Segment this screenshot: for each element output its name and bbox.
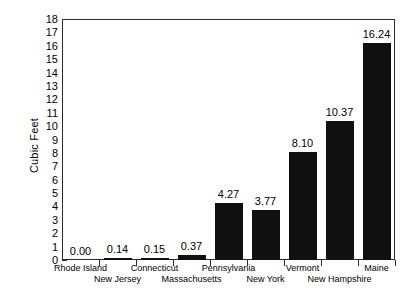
bar[interactable] [363,43,391,260]
y-axis-tick-label: 9 [6,135,58,146]
y-axis-tick-label: 18 [6,14,58,25]
y-axis-tick-label: 2 [6,228,58,239]
y-axis-tick-label: 8 [6,148,58,159]
x-axis-category-label: Massachusetts [161,274,221,284]
y-axis-tick-label: 16 [6,41,58,52]
x-axis-tick [321,260,322,266]
x-axis-category-label: Rhode Island [54,263,107,273]
bar-value-label: 8.10 [278,138,327,149]
y-axis-tick-label: 0 [6,255,58,266]
x-axis-category-label: New York [246,274,284,284]
y-axis-tick-label: 12 [6,94,58,105]
bars-layer: 0.000.140.150.374.273.778.1010.3716.24 [62,19,395,260]
y-axis-tick-label: 14 [6,68,58,79]
x-axis-category-label: Vermont [286,263,320,273]
bar-value-label: 0.37 [167,241,216,252]
x-axis-category-label: Connecticut [131,263,179,273]
y-axis-tick-label: 10 [6,121,58,132]
y-axis-tick-label: 13 [6,81,58,92]
bar-value-label: 16.24 [352,29,401,40]
bar[interactable] [252,210,280,260]
bar[interactable] [141,258,169,260]
x-axis-category-label: Pennsylvania [202,263,256,273]
y-axis-tick-label: 11 [6,108,58,119]
y-axis-tick-label: 15 [6,54,58,65]
y-axis-tick-label: 7 [6,161,58,172]
y-axis-tick-label: 4 [6,201,58,212]
y-axis-tick-label: 17 [6,27,58,38]
x-axis-tick [358,260,359,266]
y-axis-tick-label: 6 [6,175,58,186]
y-axis-tick-label: 1 [6,242,58,253]
bar[interactable] [178,255,206,260]
bar-value-label: 10.37 [315,107,364,118]
bar[interactable] [289,152,317,260]
bar[interactable] [215,203,243,260]
bar-value-label: 3.77 [241,196,290,207]
y-axis-tick [62,260,67,261]
y-axis-tick-label: 5 [6,188,58,199]
bar[interactable] [104,258,132,260]
x-axis-category-label: Maine [364,263,389,273]
bar-chart: Cubic Feet 1817161514131211109876543210 … [0,0,411,291]
bar[interactable] [326,121,354,260]
x-axis-tick [395,260,396,266]
x-axis-category-label: New Hampshire [307,274,371,284]
x-axis-category-label: New Jersey [94,274,141,284]
y-axis-tick-label: 3 [6,215,58,226]
